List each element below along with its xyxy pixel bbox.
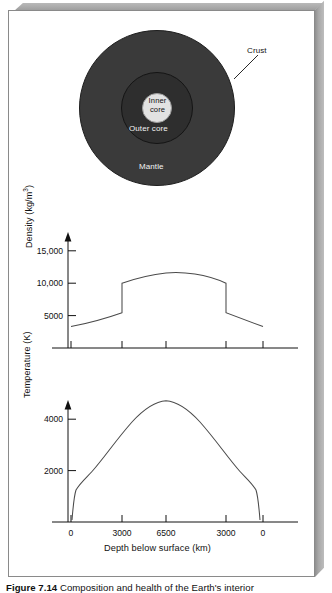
density-curve bbox=[71, 273, 263, 327]
density-chart-svg: 5000 10,000 15,000 bbox=[8, 228, 315, 358]
temperature-y-ticks bbox=[68, 419, 76, 470]
x-axis-title: Depth below surface (km) bbox=[0, 543, 315, 553]
figure-caption: Figure 7.14 Composition and health of th… bbox=[6, 582, 332, 593]
figure-root: Inner core Outer core Mantle Crust Densi… bbox=[0, 0, 332, 593]
temperature-y-tick-label-2000: 2000 bbox=[44, 466, 63, 476]
temperature-y-tick-label-4000: 4000 bbox=[44, 414, 63, 424]
x-tick-label-3000-left: 3000 bbox=[112, 528, 131, 538]
temperature-curve bbox=[72, 401, 260, 520]
temperature-chart-svg: 2000 4000 0 3000 6500 3000 0 bbox=[8, 370, 315, 540]
density-y-tick-label-10000: 10,000 bbox=[37, 278, 64, 288]
page-right-shadow bbox=[315, 1, 324, 577]
density-y-ticks bbox=[68, 251, 76, 316]
x-tick-label-0-left: 0 bbox=[69, 528, 74, 538]
inner-core-label-line2: core bbox=[150, 105, 165, 114]
x-tick-label-3000-right: 3000 bbox=[216, 528, 235, 538]
temperature-x-tick-labels: 0 3000 6500 3000 0 bbox=[69, 528, 266, 538]
figure-caption-label: Figure 7.14 bbox=[6, 582, 57, 593]
density-x-ticks bbox=[71, 341, 263, 348]
mantle-label: Mantle bbox=[139, 162, 164, 172]
temperature-y-tick-labels: 2000 4000 bbox=[44, 414, 63, 475]
crust-leader-line bbox=[233, 54, 259, 80]
density-y-tick-labels: 5000 10,000 15,000 bbox=[37, 246, 64, 321]
density-y-tick-label-5000: 5000 bbox=[44, 311, 63, 321]
inner-core-label: Inner core bbox=[144, 97, 171, 114]
temperature-y-axis-arrow bbox=[65, 400, 72, 410]
temperature-x-ticks bbox=[71, 515, 263, 522]
x-tick-label-6500-center: 6500 bbox=[156, 528, 175, 538]
outer-core-label: Outer core bbox=[129, 124, 168, 134]
x-tick-label-0-right: 0 bbox=[261, 528, 266, 538]
temperature-chart: 2000 4000 0 3000 6500 3000 0 bbox=[8, 370, 315, 540]
earth-cross-section-diagram: Inner core Outer core Mantle Crust bbox=[8, 10, 315, 220]
density-y-tick-label-15000: 15,000 bbox=[37, 246, 64, 256]
density-y-axis-arrow bbox=[65, 232, 72, 242]
density-chart: 5000 10,000 15,000 bbox=[8, 228, 315, 358]
figure-caption-text: Composition and health of the Earth's in… bbox=[60, 582, 254, 593]
